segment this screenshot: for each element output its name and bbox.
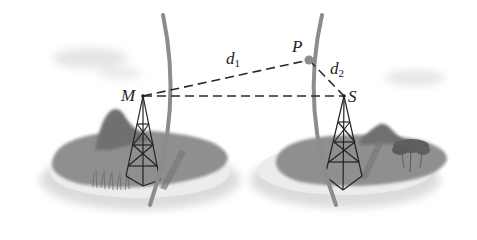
diagram-canvas: M P S d1 d2 — [0, 0, 477, 240]
label-p: P — [292, 38, 302, 55]
point-m — [141, 94, 145, 98]
right-island — [250, 96, 447, 208]
left-island — [40, 96, 240, 210]
point-s — [342, 94, 346, 98]
label-s: S — [348, 88, 357, 105]
cloud-right — [385, 70, 445, 86]
cloud-left — [52, 48, 142, 79]
label-d1: d1 — [226, 50, 240, 69]
label-m: M — [121, 87, 135, 104]
label-d2: d2 — [330, 60, 344, 79]
point-p — [305, 56, 314, 65]
